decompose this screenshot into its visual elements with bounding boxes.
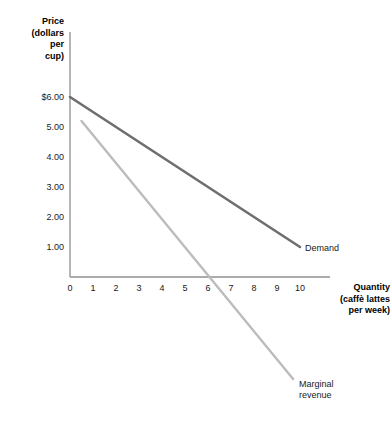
marginal-revenue-series-label: Marginal revenue [299, 379, 334, 401]
demand-marginal-revenue-chart: Price (dollars per cup) Quantity (caffè … [0, 0, 392, 424]
plot-area [0, 0, 392, 424]
demand-series-label: Demand [305, 243, 339, 254]
series-lines [70, 97, 300, 379]
demand-line [70, 97, 300, 247]
marginal-revenue-line [82, 121, 294, 379]
